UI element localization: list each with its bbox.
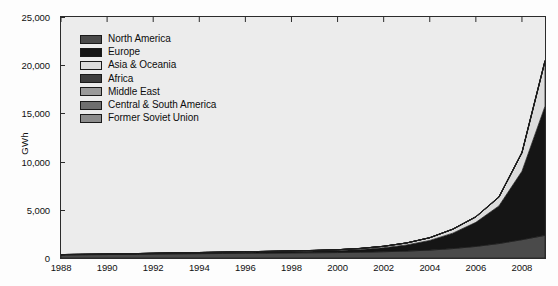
x-tick-label: 1998 (281, 262, 302, 273)
y-tick-mark (60, 17, 65, 18)
legend-item: Asia & Oceania (80, 59, 216, 71)
x-tick-label: 2004 (419, 262, 440, 273)
legend-label: Africa (108, 74, 133, 84)
legend-swatch (80, 87, 102, 96)
x-tick-label: 2000 (327, 262, 348, 273)
legend-item: Middle East (80, 86, 216, 98)
y-tick-mark (60, 65, 65, 66)
x-tick-label: 1988 (51, 262, 72, 273)
y-tick-mark (60, 258, 65, 259)
legend-swatch (80, 61, 102, 70)
legend-label: Middle East (108, 87, 160, 97)
x-tick-label: 1996 (235, 262, 256, 273)
y-axis: 05,00010,00015,00020,00025,000 (0, 0, 58, 286)
x-tick-label: 1994 (189, 262, 210, 273)
area-series (61, 106, 545, 255)
y-tick-label: 0 (45, 253, 50, 264)
legend-swatch (80, 114, 102, 123)
y-tick-label: 15,000 (22, 108, 50, 119)
legend-swatch (80, 35, 102, 44)
y-tick-label: 10,000 (22, 156, 50, 167)
y-tick-label: 5,000 (27, 204, 50, 215)
y-tick-mark (60, 162, 65, 163)
legend-label: Central & South America (108, 100, 216, 110)
legend-label: Asia & Oceania (108, 60, 176, 70)
chart-figure: GWh 05,00010,00015,00020,00025,000 North… (0, 0, 558, 286)
y-tick-mark (60, 113, 65, 114)
legend-item: Europe (80, 46, 216, 58)
x-tick-label: 1990 (97, 262, 118, 273)
legend-label: Former Soviet Union (108, 113, 199, 123)
y-tick-mark (60, 210, 65, 211)
y-tick-label: 20,000 (22, 60, 50, 71)
x-tick-label: 2008 (512, 262, 533, 273)
legend-swatch (80, 74, 102, 83)
legend-item: Africa (80, 73, 216, 85)
x-tick-label: 2002 (373, 262, 394, 273)
chart-legend: North AmericaEuropeAsia & OceaniaAfricaM… (80, 33, 216, 124)
legend-label: Europe (108, 47, 140, 57)
x-tick-label: 1992 (143, 262, 164, 273)
legend-item: Central & South America (80, 99, 216, 111)
y-tick-label: 25,000 (22, 12, 50, 23)
legend-item: Former Soviet Union (80, 112, 216, 124)
legend-swatch (80, 48, 102, 57)
legend-label: North America (108, 34, 171, 44)
legend-item: North America (80, 33, 216, 45)
x-tick-label: 2006 (465, 262, 486, 273)
legend-swatch (80, 101, 102, 110)
